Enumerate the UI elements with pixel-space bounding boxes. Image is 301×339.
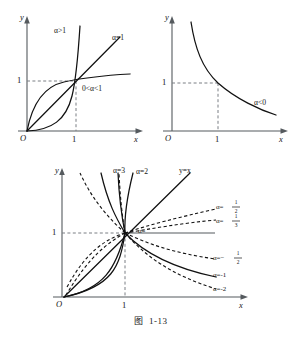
curve-alpha-equals-1	[27, 37, 120, 131]
label-y-equals-x: y=x	[179, 166, 191, 175]
figure-caption-number: 1-13	[149, 316, 168, 326]
label-alpha-equals-one-half: α= 1 2	[216, 199, 240, 214]
label-alpha-one-half-numerator: 1	[235, 199, 238, 205]
curve-alpha-minus-one-half-right	[125, 233, 216, 259]
y-tick-1: 1	[17, 75, 21, 85]
curve-alpha-greater-than-1	[27, 26, 80, 131]
label-alpha-one-third-prefix: α=	[216, 217, 224, 224]
figure-caption-label: 图	[134, 316, 144, 326]
label-alpha-equals-minus-2: α=-2	[213, 285, 227, 292]
panel-alpha-family: O 1 1 x y α=3 α=2 y=x α= α= 1 2 α= 1 3 α…	[20, 163, 285, 313]
panel-alpha-negative: O 1 1 x y α<0	[150, 0, 301, 165]
label-alpha-one-third-numerator: 1	[235, 213, 238, 219]
label-alpha-between-0-and-1: 0<α<1	[82, 84, 102, 93]
origin-label: O	[56, 299, 62, 309]
y-tick-1: 1	[52, 227, 56, 237]
x-tick-1: 1	[215, 134, 219, 144]
x-axis-label: x	[238, 300, 243, 310]
curve-alpha-between-0-and-1	[27, 74, 130, 131]
label-alpha-equals-minus-1: α=-1	[213, 271, 227, 278]
curve-alpha-equals-2-upper	[125, 173, 133, 233]
x-axis-arrow	[281, 128, 289, 134]
x-tick-1: 1	[122, 300, 126, 310]
curve-alpha-minus-2-right	[125, 233, 216, 289]
y-axis-label: y	[164, 12, 169, 22]
label-alpha-minus-one-half-denominator: 2	[237, 259, 240, 265]
origin-label: O	[20, 133, 26, 143]
origin-label: O	[165, 133, 171, 143]
figure-caption: 图1-13	[0, 314, 301, 327]
label-alpha-inner: α=	[138, 227, 146, 234]
label-alpha-minus-one-half-numerator: 1	[237, 250, 240, 256]
label-alpha-equals-minus-one-half: α=− 1 2	[213, 250, 242, 265]
label-alpha-less-than-0: α<0	[254, 98, 266, 107]
y-axis-label: y	[54, 165, 59, 175]
x-axis-arrow	[241, 294, 249, 300]
x-tick-1: 1	[72, 134, 76, 144]
label-alpha-minus-one-half-prefix: α=−	[213, 254, 224, 261]
y-axis-arrow	[24, 16, 30, 24]
label-alpha-one-third-denominator: 3	[235, 222, 238, 228]
panel-alpha-positive: O 1 1 x y α>1 α=1 0<α<1	[0, 0, 150, 165]
label-alpha-one-half-prefix: α=	[216, 203, 224, 210]
label-alpha-equals-1: α=1	[112, 33, 124, 42]
y-axis-arrow	[169, 16, 175, 24]
y-axis-arrow	[59, 168, 65, 175]
label-alpha-equals-3: α=3	[113, 166, 125, 175]
label-alpha-equals-2: α=2	[136, 167, 148, 176]
y-axis-label: y	[19, 12, 24, 22]
x-axis-label: x	[133, 134, 138, 144]
x-axis-arrow	[136, 128, 144, 134]
label-alpha-greater-than-1: α>1	[54, 26, 66, 35]
x-axis-label: x	[278, 134, 283, 144]
label-alpha-equals-one-third: α= 1 3	[216, 213, 240, 228]
y-tick-1: 1	[162, 77, 166, 87]
figure-1-13: O 1 1 x y α>1 α=1 0<α<1 O 1 1 x y α<0	[0, 0, 301, 339]
